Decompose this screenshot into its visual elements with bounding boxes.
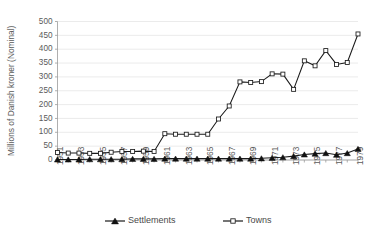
y-tick-label: 100 <box>39 127 53 136</box>
y-tick-label: 350 <box>39 58 53 67</box>
x-tick-label: 1963 <box>185 146 194 165</box>
data-point-marker <box>184 132 188 136</box>
data-point-marker <box>238 80 242 84</box>
data-point-marker <box>88 151 92 155</box>
x-tick-label: 1961 <box>163 146 172 165</box>
data-point-marker <box>249 80 253 84</box>
y-tick-label: 150 <box>39 114 53 123</box>
legend-marker-square <box>231 219 235 223</box>
legend-label-text: Towns <box>246 215 272 225</box>
y-axis-tick-labels: 050100150200250300350400450500 <box>39 17 53 165</box>
data-point-marker <box>120 149 124 153</box>
x-tick-label: 1969 <box>249 146 258 165</box>
data-point-marker <box>98 151 102 155</box>
data-point-marker <box>131 149 135 153</box>
y-tick-label: 300 <box>39 72 53 81</box>
data-point-marker <box>270 72 274 76</box>
y-axis-title-text: Millions of Danish kroner (Nominal) <box>6 25 16 156</box>
gridlines-group <box>58 22 359 161</box>
x-tick-label: 1967 <box>228 146 237 165</box>
data-point-marker <box>152 149 156 153</box>
data-point-marker <box>206 132 210 136</box>
legend-label-text: Settlements <box>128 215 176 225</box>
y-tick-label: 50 <box>43 141 53 150</box>
data-point-marker <box>141 149 145 153</box>
data-point-marker <box>66 151 70 155</box>
legend-item-towns[interactable]: Towns <box>223 215 272 225</box>
chart-container: 050100150200250300350400450500 195119531… <box>0 0 365 238</box>
data-point-marker <box>109 150 113 154</box>
y-tick-label: 450 <box>39 31 53 40</box>
data-point-marker <box>335 62 339 66</box>
data-point-marker <box>174 132 178 136</box>
y-tick-label: 400 <box>39 44 53 53</box>
y-tick-label: 500 <box>39 17 53 26</box>
data-point-marker <box>313 64 317 68</box>
data-point-marker <box>259 80 263 84</box>
data-point-marker <box>195 132 199 136</box>
x-tick-label: 1965 <box>206 146 215 165</box>
series-towns <box>56 32 361 155</box>
data-point-marker <box>292 87 296 91</box>
legend-item-settlements[interactable]: Settlements <box>105 215 176 225</box>
data-point-marker <box>227 104 231 108</box>
data-point-marker <box>56 151 60 155</box>
y-axis <box>55 22 58 161</box>
data-point-marker <box>356 32 360 36</box>
y-tick-label: 250 <box>39 86 53 95</box>
data-point-marker <box>345 61 349 65</box>
chart-legend: SettlementsTowns <box>105 215 272 225</box>
data-point-marker <box>216 117 220 121</box>
data-point-marker <box>324 49 328 53</box>
y-tick-label: 200 <box>39 100 53 109</box>
line-chart: 050100150200250300350400450500 195119531… <box>0 0 365 238</box>
y-tick-label: 0 <box>48 155 53 164</box>
data-point-marker <box>302 59 306 63</box>
y-axis-title: Millions of Danish kroner (Nominal) <box>6 25 16 156</box>
data-point-marker <box>163 132 167 136</box>
data-point-marker <box>281 72 285 76</box>
data-point-marker <box>77 151 81 155</box>
